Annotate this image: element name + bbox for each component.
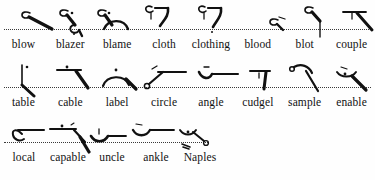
word-label: table: [0, 95, 47, 109]
word-labels-row-2: table cable label circle angle cudgel sa…: [0, 95, 375, 109]
word-label: enable: [328, 95, 375, 109]
outline-blazer: [60, 10, 82, 36]
word-label: angle: [188, 95, 235, 109]
word-label: uncle: [90, 150, 134, 164]
outline-blot: [305, 7, 320, 37]
word-label: blow: [0, 37, 47, 51]
outline-ankle: [133, 124, 174, 135]
outline-capable: [50, 123, 89, 152]
word-label: circle: [141, 95, 188, 109]
outline-angle: [199, 67, 238, 78]
baseline-row-2: [4, 87, 371, 88]
word-label: blame: [94, 37, 141, 51]
outline-cable: [57, 66, 88, 88]
word-label: clothing: [188, 37, 235, 51]
outline-label: [103, 69, 136, 89]
outline-cloth: [146, 6, 168, 26]
outline-local: [13, 130, 44, 140]
outline-table: [22, 65, 34, 96]
shorthand-row-3: local capable uncle ankle Naples: [0, 116, 375, 180]
word-label: couple: [328, 37, 375, 51]
word-label: label: [94, 95, 141, 109]
word-label: cudgel: [234, 95, 281, 109]
baseline-row-3: [4, 142, 208, 143]
outline-uncle: [91, 129, 126, 141]
shorthand-chart: blow blazer blame cloth clothing blood b…: [0, 0, 375, 180]
word-label: cloth: [141, 37, 188, 51]
outline-circle: [144, 66, 186, 89]
word-label: capable: [46, 150, 90, 164]
word-label: blazer: [47, 37, 94, 51]
outline-naples: [180, 130, 208, 149]
word-label: cable: [47, 95, 94, 109]
baseline-row-1: [4, 29, 371, 30]
word-labels-row-1: blow blazer blame cloth clothing blood b…: [0, 37, 375, 51]
word-label: blood: [234, 37, 281, 51]
word-label: local: [2, 150, 46, 164]
outline-couple: [343, 12, 372, 30]
word-label: Naples: [178, 150, 222, 164]
word-label: ankle: [134, 150, 178, 164]
word-label: blot: [281, 37, 328, 51]
shorthand-strokes-row-1: [0, 0, 375, 40]
shorthand-row-1: blow blazer blame cloth clothing blood b…: [0, 0, 375, 58]
shorthand-strokes-row-2: [0, 58, 375, 98]
word-labels-row-3: local capable uncle ankle Naples: [0, 150, 375, 164]
outline-blame: [98, 10, 128, 29]
shorthand-row-2: table cable label circle angle cudgel sa…: [0, 58, 375, 116]
outline-blow: [22, 12, 52, 29]
word-label: sample: [281, 95, 328, 109]
